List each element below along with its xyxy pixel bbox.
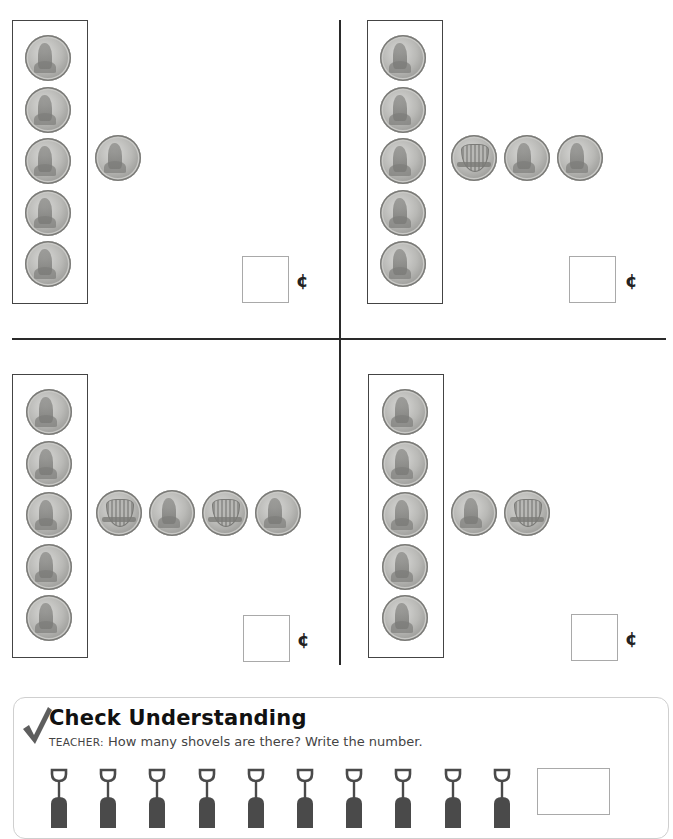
- penny-heads-icon: [26, 389, 72, 435]
- penny-heads-icon: [380, 35, 426, 81]
- penny-heads-icon: [504, 135, 550, 181]
- penny-heads-icon: [95, 135, 141, 181]
- shovel-icon: [343, 768, 365, 828]
- penny-heads-icon: [25, 138, 71, 184]
- horizontal-divider: [12, 338, 666, 340]
- penny-tails-icon: [202, 490, 248, 536]
- penny-heads-icon: [26, 544, 72, 590]
- penny-heads-icon: [380, 87, 426, 133]
- penny-heads-icon: [25, 35, 71, 81]
- penny-heads-icon: [380, 190, 426, 236]
- shovel-icon: [97, 768, 119, 828]
- shovel-icon: [48, 768, 70, 828]
- shovel-icon: [442, 768, 464, 828]
- answer-box-top-right[interactable]: [569, 256, 616, 303]
- penny-heads-icon: [557, 135, 603, 181]
- penny-heads-icon: [25, 241, 71, 287]
- penny-heads-icon: [26, 492, 72, 538]
- vertical-divider: [339, 20, 341, 665]
- penny-heads-icon: [25, 87, 71, 133]
- penny-heads-icon: [382, 389, 428, 435]
- answer-box-top-left[interactable]: [242, 256, 289, 303]
- cent-symbol: ¢: [625, 270, 638, 291]
- penny-tails-icon: [504, 490, 550, 536]
- penny-heads-icon: [382, 595, 428, 641]
- penny-heads-icon: [451, 490, 497, 536]
- shovel-icon: [392, 768, 414, 828]
- penny-tails-icon: [96, 490, 142, 536]
- check-understanding-title: Check Understanding: [49, 706, 307, 730]
- penny-heads-icon: [26, 595, 72, 641]
- penny-heads-icon: [255, 490, 301, 536]
- shovel-icon: [491, 768, 513, 828]
- cent-symbol: ¢: [297, 629, 310, 650]
- shovel-icon: [196, 768, 218, 828]
- penny-heads-icon: [382, 544, 428, 590]
- penny-heads-icon: [25, 190, 71, 236]
- teacher-label: TEACHER:: [49, 736, 104, 748]
- answer-box-bottom-right[interactable]: [571, 614, 618, 661]
- shovel-count-answer-box[interactable]: [537, 768, 610, 815]
- penny-tails-icon: [451, 135, 497, 181]
- penny-heads-icon: [380, 138, 426, 184]
- shovel-icon: [294, 768, 316, 828]
- cent-symbol: ¢: [625, 628, 638, 649]
- penny-heads-icon: [149, 490, 195, 536]
- shovel-icon: [146, 768, 168, 828]
- penny-heads-icon: [382, 492, 428, 538]
- penny-heads-icon: [382, 441, 428, 487]
- teacher-prompt: TEACHER: How many shovels are there? Wri…: [49, 734, 423, 749]
- penny-heads-icon: [380, 241, 426, 287]
- penny-heads-icon: [26, 441, 72, 487]
- answer-box-bottom-left[interactable]: [243, 615, 290, 662]
- cent-symbol: ¢: [296, 270, 309, 291]
- shovel-icon: [245, 768, 267, 828]
- prompt-text: How many shovels are there? Write the nu…: [108, 734, 423, 749]
